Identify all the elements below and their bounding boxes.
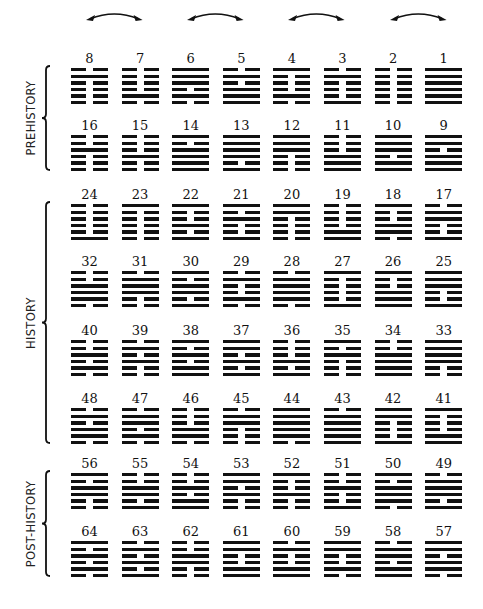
yang-line xyxy=(324,353,361,356)
hexagram-number: 12 xyxy=(273,119,310,133)
yin-line xyxy=(273,168,310,171)
yang-line xyxy=(172,271,209,274)
yin-line xyxy=(122,408,159,411)
hexagram-28: 28 xyxy=(273,271,310,308)
hexagram-number: 53 xyxy=(223,457,260,471)
hexagram-36: 36 xyxy=(273,340,310,377)
yin-line xyxy=(223,230,260,233)
yin-line xyxy=(425,554,462,557)
hexagram-24: 24 xyxy=(71,204,108,241)
hexagram-number: 50 xyxy=(375,457,412,471)
yin-line xyxy=(273,340,310,343)
yang-line xyxy=(122,155,159,158)
yin-line xyxy=(122,142,159,145)
yang-line xyxy=(375,230,412,233)
yin-line xyxy=(375,421,412,424)
yin-line xyxy=(122,441,159,444)
yang-line xyxy=(71,541,108,544)
yang-line xyxy=(324,101,361,104)
yin-line xyxy=(122,541,159,544)
yang-line xyxy=(273,135,310,138)
yang-line xyxy=(324,340,361,343)
hexagram-number: 42 xyxy=(375,392,412,406)
yin-line xyxy=(223,554,260,557)
yin-line xyxy=(324,148,361,151)
hexagram-63: 63 xyxy=(122,541,159,578)
yang-line xyxy=(71,428,108,431)
hexagram-19: 19 xyxy=(324,204,361,241)
yang-line xyxy=(223,278,260,281)
hexagram-3: 3 xyxy=(324,68,361,105)
yin-line xyxy=(324,499,361,502)
hexagram-number: 9 xyxy=(425,119,462,133)
hexagram-number: 59 xyxy=(324,525,361,539)
hexagram-number: 10 xyxy=(375,119,412,133)
yin-line xyxy=(324,68,361,71)
yin-line xyxy=(71,373,108,376)
yang-line xyxy=(122,493,159,496)
yang-line xyxy=(324,428,361,431)
yin-line xyxy=(71,561,108,564)
yin-line xyxy=(425,366,462,369)
yang-line xyxy=(223,340,260,343)
yin-line xyxy=(273,271,310,274)
yin-line xyxy=(273,217,310,220)
yang-line xyxy=(223,204,260,207)
swap-arrow-icon xyxy=(389,6,448,24)
yin-line xyxy=(122,75,159,78)
yang-line xyxy=(122,94,159,97)
yang-line xyxy=(425,304,462,307)
yang-line xyxy=(425,88,462,91)
yin-line xyxy=(324,217,361,220)
yin-line xyxy=(172,88,209,91)
yin-line xyxy=(324,284,361,287)
yin-line xyxy=(122,101,159,104)
yang-line xyxy=(273,434,310,437)
yang-line xyxy=(425,271,462,274)
yang-line xyxy=(425,101,462,104)
yang-line xyxy=(172,224,209,227)
yang-line xyxy=(223,142,260,145)
yin-line xyxy=(122,230,159,233)
swap-arrow-icon xyxy=(85,6,144,24)
hexagram-number: 32 xyxy=(71,255,108,269)
yin-line xyxy=(375,278,412,281)
yin-line xyxy=(425,373,462,376)
yin-line xyxy=(172,441,209,444)
yin-line xyxy=(122,353,159,356)
yang-line xyxy=(71,366,108,369)
yang-line xyxy=(223,548,260,551)
yang-line xyxy=(273,360,310,363)
hexagram-5: 5 xyxy=(223,68,260,105)
yin-line xyxy=(324,211,361,214)
yang-line xyxy=(375,304,412,307)
yang-line xyxy=(273,567,310,570)
yang-line xyxy=(71,434,108,437)
yang-line xyxy=(172,304,209,307)
yang-line xyxy=(223,217,260,220)
yang-line xyxy=(71,486,108,489)
yang-line xyxy=(122,360,159,363)
yang-line xyxy=(425,340,462,343)
hexagram-52: 52 xyxy=(273,473,310,510)
hexagram-26: 26 xyxy=(375,271,412,308)
yang-line xyxy=(375,548,412,551)
hexagram-47: 47 xyxy=(122,408,159,445)
yang-line xyxy=(71,493,108,496)
yang-line xyxy=(425,541,462,544)
yin-line xyxy=(71,347,108,350)
yin-line xyxy=(273,486,310,489)
yin-line xyxy=(273,366,310,369)
hexagram-61: 61 xyxy=(223,541,260,578)
yin-line xyxy=(71,548,108,551)
yin-line xyxy=(375,75,412,78)
yang-line xyxy=(122,486,159,489)
yang-line xyxy=(324,441,361,444)
yang-line xyxy=(71,473,108,476)
yin-line xyxy=(172,297,209,300)
hexagram-number: 54 xyxy=(172,457,209,471)
yang-line xyxy=(71,284,108,287)
hexagram-50: 50 xyxy=(375,473,412,510)
hexagram-20: 20 xyxy=(273,204,310,241)
yin-line xyxy=(223,224,260,227)
